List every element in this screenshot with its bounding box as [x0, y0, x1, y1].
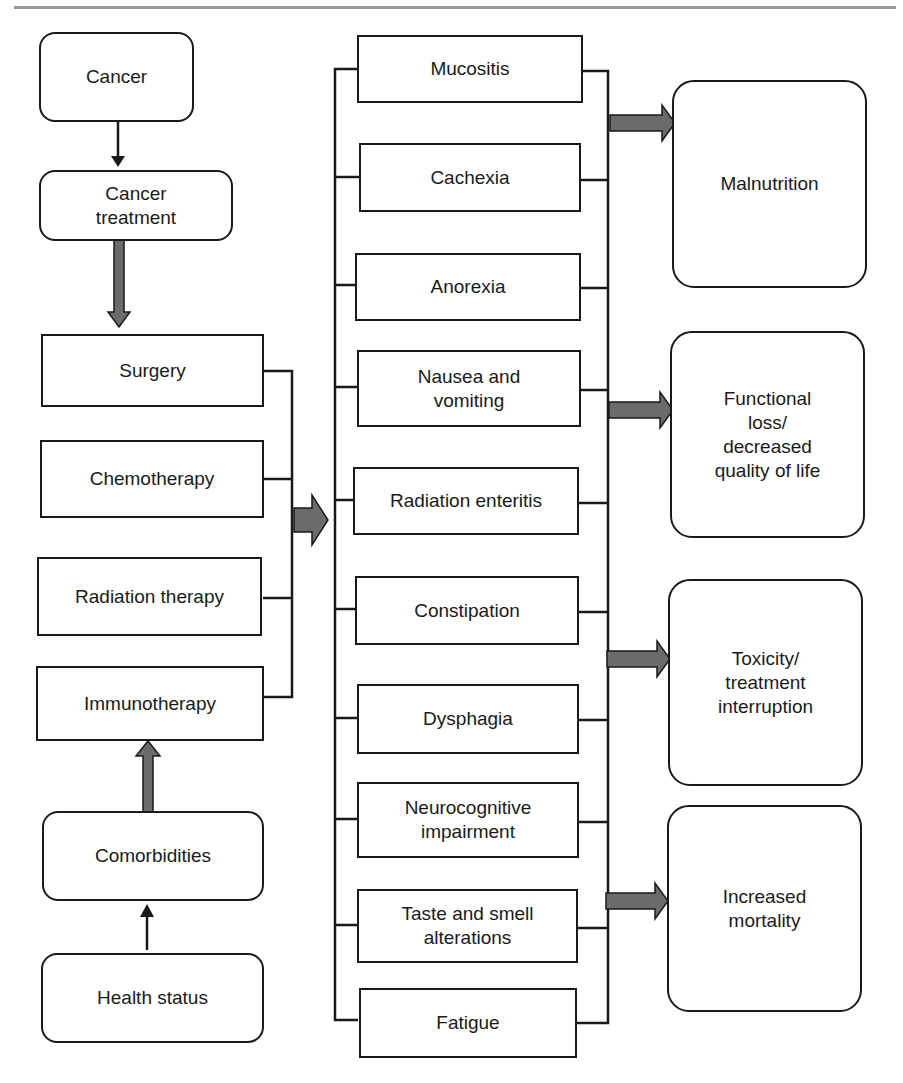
outcome-label: Malnutrition: [720, 172, 818, 196]
chemotherapy-node: Chemotherapy: [40, 440, 264, 518]
comorbidities-label: Comorbidities: [95, 844, 211, 868]
health-status-label: Health status: [97, 986, 208, 1010]
outcome-malnutrition: Malnutrition: [672, 80, 867, 288]
outcome-toxicity: Toxicity/ treatment interruption: [668, 579, 863, 786]
radiation-therapy-node: Radiation therapy: [37, 557, 262, 636]
effect-mucositis: Mucositis: [357, 35, 583, 103]
effect-label: Mucositis: [430, 57, 509, 81]
immunotherapy-label: Immunotherapy: [84, 692, 216, 716]
outcome-label: Toxicity/ treatment interruption: [718, 647, 813, 719]
cancer-node: Cancer: [39, 32, 194, 122]
outcome-label: Functional loss/ decreased quality of li…: [715, 387, 821, 483]
chemotherapy-label: Chemotherapy: [90, 467, 215, 491]
radiation-therapy-label: Radiation therapy: [75, 585, 224, 609]
surgery-node: Surgery: [41, 334, 264, 407]
effect-label: Neurocognitive impairment: [405, 796, 532, 844]
effect-label: Dysphagia: [423, 707, 513, 731]
outcome-increased-mortality: Increased mortality: [667, 805, 862, 1012]
effect-label: Cachexia: [430, 166, 509, 190]
comorbidities-node: Comorbidities: [42, 811, 264, 901]
cancer-treatment-label: Cancer treatment: [96, 182, 176, 230]
effect-nausea-vomiting: Nausea and vomiting: [357, 350, 581, 427]
surgery-label: Surgery: [119, 359, 186, 383]
immunotherapy-node: Immunotherapy: [36, 666, 264, 741]
effect-fatigue: Fatigue: [359, 988, 577, 1058]
effect-taste-smell-alterations: Taste and smell alterations: [357, 889, 578, 963]
effect-radiation-enteritis: Radiation enteritis: [353, 467, 579, 535]
effect-label: Radiation enteritis: [390, 489, 542, 513]
health-status-node: Health status: [41, 953, 264, 1043]
effect-label: Anorexia: [431, 275, 506, 299]
effect-label: Taste and smell alterations: [401, 902, 533, 950]
effect-neurocognitive-impairment: Neurocognitive impairment: [357, 782, 579, 858]
top-rule: [14, 6, 896, 9]
effect-constipation: Constipation: [355, 576, 579, 645]
effect-cachexia: Cachexia: [359, 143, 581, 212]
effect-label: Constipation: [414, 599, 520, 623]
effect-anorexia: Anorexia: [355, 253, 581, 321]
outcome-functional-loss: Functional loss/ decreased quality of li…: [670, 331, 865, 538]
outcome-label: Increased mortality: [723, 885, 806, 933]
cancer-label: Cancer: [86, 65, 147, 89]
cancer-treatment-node: Cancer treatment: [39, 170, 233, 241]
effect-dysphagia: Dysphagia: [357, 684, 579, 754]
effect-label: Nausea and vomiting: [418, 365, 520, 413]
effect-label: Fatigue: [436, 1011, 499, 1035]
